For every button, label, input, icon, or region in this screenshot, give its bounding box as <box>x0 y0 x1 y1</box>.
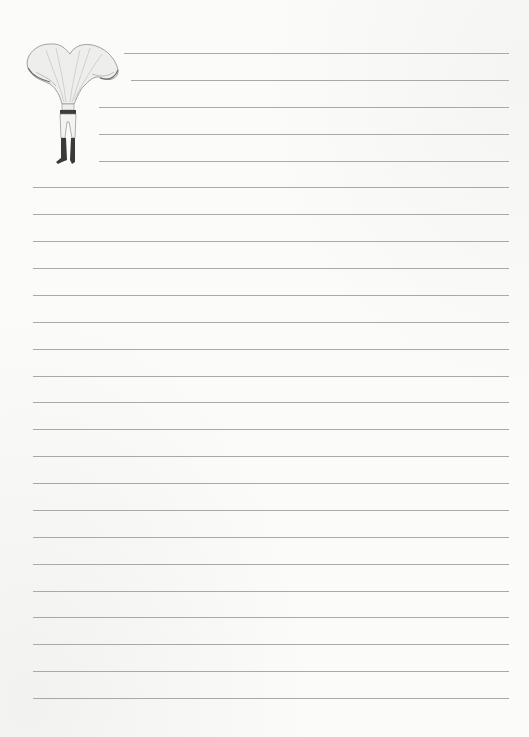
ruled-line <box>99 161 509 162</box>
ruled-line <box>33 671 509 672</box>
ruled-line <box>99 107 509 108</box>
ruled-line <box>33 349 509 350</box>
ruled-line <box>33 187 509 188</box>
ruled-line <box>33 402 509 403</box>
ruled-line <box>33 591 509 592</box>
ruled-line <box>33 698 509 699</box>
lined-paper <box>0 0 529 737</box>
ruled-line <box>33 241 509 242</box>
ruled-line <box>33 268 509 269</box>
ruled-line <box>131 80 509 81</box>
ruled-line <box>99 134 509 135</box>
ruled-line <box>33 510 509 511</box>
ruled-line <box>33 322 509 323</box>
ruled-line <box>33 617 509 618</box>
ruled-line <box>33 214 509 215</box>
mushroom-person-icon <box>22 38 122 174</box>
ruled-line <box>33 564 509 565</box>
ruled-line <box>33 644 509 645</box>
ruled-line <box>124 53 509 54</box>
ruled-line <box>33 295 509 296</box>
ruled-line <box>33 483 509 484</box>
ruled-line <box>33 376 509 377</box>
ruled-line <box>33 456 509 457</box>
ruled-line <box>33 537 509 538</box>
ruled-line <box>33 429 509 430</box>
